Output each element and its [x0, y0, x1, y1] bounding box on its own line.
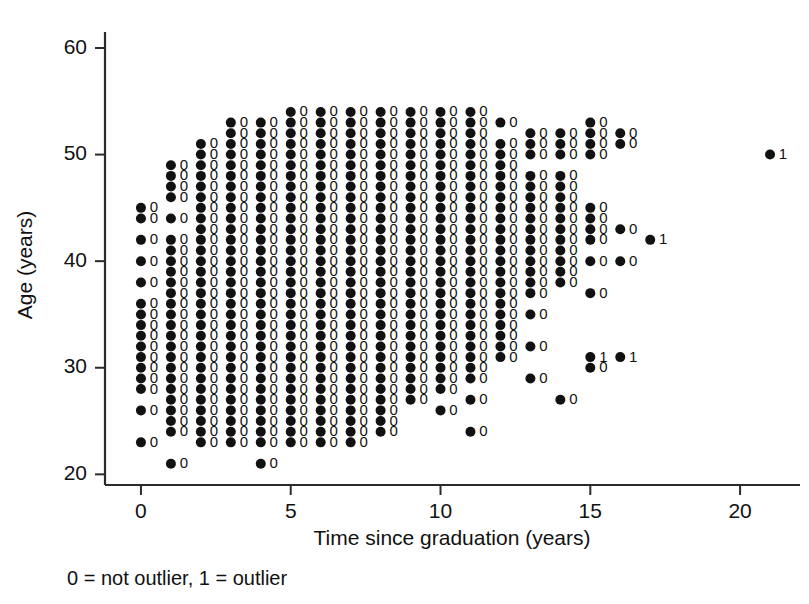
data-point-marker	[376, 309, 386, 319]
data-point-marker	[376, 299, 386, 309]
data-point-outlier-flag: 0	[330, 433, 338, 450]
data-point-outlier-flag: 0	[150, 401, 158, 418]
data-point-marker	[465, 331, 475, 341]
data-point-marker	[555, 182, 565, 192]
data-point-marker	[316, 107, 326, 117]
data-point-marker	[346, 277, 356, 287]
data-point: 0	[585, 284, 607, 301]
data-point-marker	[376, 352, 386, 362]
data-point-marker	[765, 150, 775, 160]
data-point-marker	[436, 277, 446, 287]
data-point-marker	[406, 246, 416, 256]
data-point-marker	[346, 437, 356, 447]
data-point-marker	[555, 214, 565, 224]
data-point-marker	[436, 214, 446, 224]
data-point-marker	[615, 224, 625, 234]
data-point-marker	[346, 341, 356, 351]
data-point-marker	[256, 320, 266, 330]
data-point-marker	[465, 128, 475, 138]
data-point-marker	[585, 139, 595, 149]
y-axis-title: Age (years)	[13, 211, 36, 320]
data-point-marker	[465, 309, 475, 319]
data-point-marker	[196, 331, 206, 341]
data-point: 0	[525, 305, 547, 322]
data-point-outlier-flag: 0	[150, 380, 158, 397]
x-tick-label: 0	[135, 499, 147, 522]
data-point-marker	[166, 309, 176, 319]
data-point-marker	[196, 416, 206, 426]
data-point-marker	[256, 214, 266, 224]
data-point-marker	[226, 128, 236, 138]
data-point-marker	[166, 352, 176, 362]
data-point: 0	[436, 401, 458, 418]
data-point-marker	[436, 309, 446, 319]
data-point-marker	[256, 459, 266, 469]
data-point-marker	[495, 267, 505, 277]
data-point-marker	[525, 288, 535, 298]
data-point-marker	[465, 267, 475, 277]
data-point-marker	[376, 405, 386, 415]
data-point-marker	[256, 224, 266, 234]
data-point-outlier-flag: 0	[150, 209, 158, 226]
data-point-marker	[166, 246, 176, 256]
data-point-marker	[286, 416, 296, 426]
data-point-marker	[346, 182, 356, 192]
data-point-marker	[166, 192, 176, 202]
data-point-marker	[376, 192, 386, 202]
data-point-marker	[136, 341, 146, 351]
data-point-marker	[226, 384, 236, 394]
data-point-marker	[495, 182, 505, 192]
data-point-outlier-flag: 0	[599, 230, 607, 247]
data-point-marker	[495, 235, 505, 245]
data-point-marker	[256, 277, 266, 287]
data-point-marker	[436, 150, 446, 160]
data-point-marker	[465, 373, 475, 383]
data-point-marker	[286, 288, 296, 298]
data-point-outlier-flag: 0	[210, 433, 218, 450]
data-point-outlier-flag: 0	[629, 134, 637, 151]
data-point-marker	[136, 320, 146, 330]
data-point-marker	[286, 320, 296, 330]
data-point-marker	[136, 214, 146, 224]
data-point-outlier-flag: 0	[569, 145, 577, 162]
data-point-marker	[406, 256, 416, 266]
data-point-marker	[555, 395, 565, 405]
data-point-marker	[166, 384, 176, 394]
data-point: 0	[615, 220, 637, 237]
data-point-marker	[406, 331, 416, 341]
data-point-marker	[346, 352, 356, 362]
data-point-marker	[376, 139, 386, 149]
data-point-marker	[226, 192, 236, 202]
data-point-marker	[376, 182, 386, 192]
data-point-marker	[555, 224, 565, 234]
data-point-marker	[286, 267, 296, 277]
data-point-marker	[196, 224, 206, 234]
x-tick-label: 20	[728, 499, 751, 522]
data-point-marker	[286, 341, 296, 351]
data-point-marker	[525, 309, 535, 319]
data-point-marker	[465, 427, 475, 437]
data-point-marker	[286, 256, 296, 266]
data-point-marker	[166, 299, 176, 309]
data-point-marker	[256, 267, 266, 277]
data-point-marker	[256, 246, 266, 256]
data-point-outlier-flag: 0	[180, 454, 188, 471]
data-point-marker	[465, 160, 475, 170]
data-point-marker	[376, 160, 386, 170]
data-point-marker	[136, 256, 146, 266]
data-point-marker	[436, 203, 446, 213]
data-point: 0	[615, 252, 637, 269]
data-point-outlier-flag: 1	[629, 348, 637, 365]
data-point-outlier-flag: 0	[629, 220, 637, 237]
data-point-marker	[226, 299, 236, 309]
data-point-marker	[316, 224, 326, 234]
data-point-marker	[316, 395, 326, 405]
data-point-marker	[495, 203, 505, 213]
data-point-marker	[256, 150, 266, 160]
data-point-marker	[166, 373, 176, 383]
data-point-marker	[465, 171, 475, 181]
data-point-marker	[256, 139, 266, 149]
data-point-marker	[286, 128, 296, 138]
data-point-marker	[286, 246, 296, 256]
data-point-marker	[525, 373, 535, 383]
